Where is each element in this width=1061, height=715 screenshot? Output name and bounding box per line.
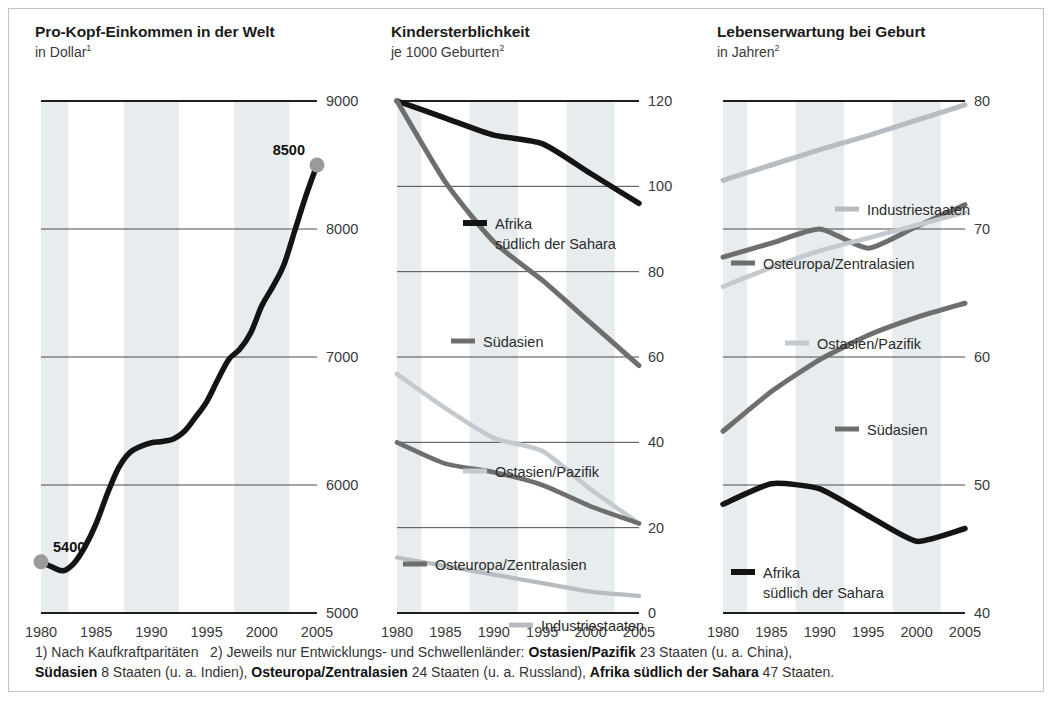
x-axis-tick-label: 1980 — [381, 624, 413, 640]
data-point-value-label: 8500 — [273, 142, 305, 158]
chart-subtitle-note: 2 — [499, 43, 504, 53]
footnote-2: 2) Jeweils nur Entwicklungs- und Schwell… — [210, 644, 524, 660]
legend-label: Afrika — [495, 216, 533, 232]
chart-subtitle-text: in Jahren — [717, 44, 775, 60]
x-axis-tick-label: 1990 — [135, 624, 167, 640]
y-axis-tick-label: 50 — [974, 477, 990, 493]
x-axis-tick-label: 2005 — [301, 624, 333, 640]
chart-subtitle: in Jahren2 — [717, 43, 1017, 60]
y-axis-tick-label: 60 — [648, 349, 664, 365]
chart-svg-3: 4050607080198019851990199520002005Indust… — [717, 77, 1017, 637]
legend-label: Osteuropa/Zentralasien — [763, 256, 915, 272]
x-axis-tick-label: 1985 — [80, 624, 112, 640]
data-point-marker — [310, 158, 325, 173]
footnote: 1) Nach Kaufkraftparitäten 2) Jeweils nu… — [35, 643, 1025, 683]
footnote-region-osteuropa-detail: 24 Staaten (u. a. Russland), — [412, 664, 586, 680]
y-axis-tick-label: 40 — [974, 605, 990, 621]
x-axis-tick-label: 1985 — [429, 624, 461, 640]
chart-title: Pro-Kopf-Einkommen in der Welt — [35, 23, 375, 41]
footnote-region-ostasien-detail: 23 Staaten (u. a. China), — [640, 644, 793, 660]
y-axis-tick-label: 20 — [648, 520, 664, 536]
chart-subtitle-note: 1 — [86, 43, 91, 53]
legend-label: Industriestaaten — [541, 618, 644, 634]
plot-area-3: 4050607080198019851990199520002005Indust… — [717, 77, 1017, 637]
y-axis-tick-label: 7000 — [326, 349, 358, 365]
chart-panel-lebenserwartung: Lebenserwartung bei Geburt in Jahren2 40… — [717, 23, 1017, 60]
footnote-region-ostasien: Ostasien/Pazifik — [528, 644, 635, 660]
legend-label: Afrika — [763, 565, 801, 581]
data-point-value-label: 5400 — [53, 539, 85, 555]
plot-area-2: 020406080100120198019851990199520002005A… — [391, 77, 691, 637]
x-axis-tick-label: 2000 — [900, 624, 932, 640]
footnote-region-afrika-detail: 47 Staaten. — [763, 664, 835, 680]
y-axis-tick-label: 8000 — [326, 221, 358, 237]
x-axis-tick-label: 2000 — [246, 624, 278, 640]
x-axis-tick-label: 1985 — [755, 624, 787, 640]
chart-svg-2: 020406080100120198019851990199520002005A… — [391, 77, 691, 637]
legend-label: Industriestaaten — [867, 202, 970, 218]
y-axis-tick-label: 9000 — [326, 93, 358, 109]
x-axis-tick-label: 2005 — [949, 624, 981, 640]
y-axis-tick-label: 5000 — [326, 605, 358, 621]
y-axis-tick-label: 80 — [648, 264, 664, 280]
x-axis-tick-label: 1990 — [478, 624, 510, 640]
chart-subtitle-text: je 1000 Geburten — [391, 44, 499, 60]
legend-label: Ostasien/Pazifik — [495, 464, 600, 480]
footnote-region-suedasien-detail: 8 Staaten (u. a. Indien), — [101, 664, 247, 680]
footnote-region-osteuropa: Osteuropa/Zentralasien — [251, 664, 407, 680]
legend-label: Osteuropa/Zentralasien — [435, 557, 587, 573]
footnote-region-suedasien: Südasien — [35, 664, 97, 680]
data-point-marker — [34, 554, 49, 569]
chart-subtitle: je 1000 Geburten2 — [391, 43, 691, 60]
footnote-1: 1) Nach Kaufkraftparitäten — [35, 644, 198, 660]
y-axis-tick-label: 80 — [974, 93, 990, 109]
y-axis-tick-label: 60 — [974, 349, 990, 365]
y-axis-tick-label: 0 — [648, 605, 656, 621]
footnote-region-afrika: Afrika südlich der Sahara — [590, 664, 759, 680]
chart-title: Kindersterblichkeit — [391, 23, 691, 41]
x-axis-tick-label: 1980 — [707, 624, 739, 640]
x-axis-tick-label: 1995 — [852, 624, 884, 640]
x-axis-tick-label: 1980 — [25, 624, 57, 640]
plot-area-1: 5000600070008000900019801985199019952000… — [35, 77, 375, 637]
chart-panel-kindersterblichkeit: Kindersterblichkeit je 1000 Geburten2 02… — [391, 23, 691, 60]
legend-label-line2: südlich der Sahara — [763, 585, 885, 601]
chart-subtitle-text: in Dollar — [35, 44, 86, 60]
legend-label-line2: südlich der Sahara — [495, 236, 617, 252]
y-axis-tick-label: 120 — [648, 93, 672, 109]
y-axis-tick-label: 70 — [974, 221, 990, 237]
chart-panel-pro-kopf-einkommen: Pro-Kopf-Einkommen in der Welt in Dollar… — [35, 23, 375, 60]
y-axis-tick-label: 100 — [648, 178, 672, 194]
legend-label: Südasien — [483, 334, 543, 350]
charts-container: Pro-Kopf-Einkommen in der Welt in Dollar… — [9, 9, 1043, 691]
legend-label: Südasien — [867, 422, 927, 438]
legend-label: Ostasien/Pazifik — [817, 336, 922, 352]
y-axis-tick-label: 40 — [648, 434, 664, 450]
figure-frame: Pro-Kopf-Einkommen in der Welt in Dollar… — [8, 8, 1044, 692]
y-axis-tick-label: 6000 — [326, 477, 358, 493]
chart-subtitle: in Dollar1 — [35, 43, 375, 60]
chart-svg-1: 5000600070008000900019801985199019952000… — [35, 77, 375, 637]
x-axis-tick-label: 1990 — [804, 624, 836, 640]
chart-title: Lebenserwartung bei Geburt — [717, 23, 1017, 41]
x-axis-tick-label: 1995 — [190, 624, 222, 640]
chart-subtitle-note: 2 — [775, 43, 780, 53]
